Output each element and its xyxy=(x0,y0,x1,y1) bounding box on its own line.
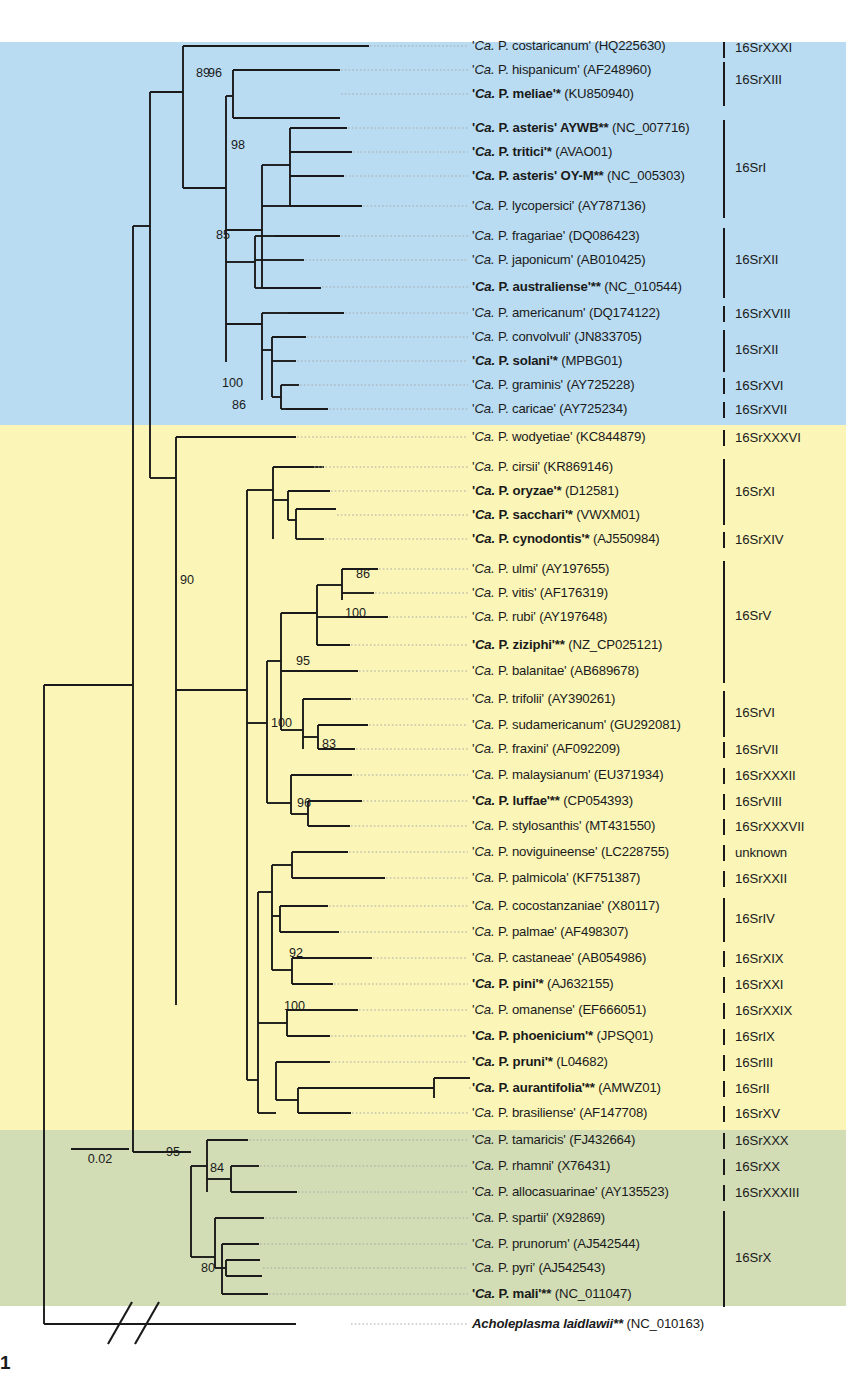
group-label: 16SrIV xyxy=(735,911,775,927)
taxon-accession: (AF498307) xyxy=(557,924,629,939)
taxon-accession: (HQ225630) xyxy=(591,38,666,53)
group-label: 16SrXXXIII xyxy=(735,1185,799,1201)
group-label: 16SrX xyxy=(735,1250,771,1266)
taxon-row: 'Ca. P. cynodontis'* (AJ550984) xyxy=(472,529,660,549)
taxon-name: 'Ca. P. tritici'* xyxy=(472,144,552,159)
bootstrap-value: 85 xyxy=(216,228,230,242)
taxon-name: 'Ca. P. asteris' OY-M** xyxy=(472,168,604,183)
group-label: 16SrII xyxy=(735,1081,770,1097)
taxon-row: 'Ca. P. noviguineense' (LC228755) xyxy=(472,842,669,862)
taxon-name: 'Ca. P. graminis' xyxy=(472,377,563,392)
taxon-accession: (AY787136) xyxy=(574,198,645,213)
taxon-name: 'Ca. P. balanitae' xyxy=(472,663,567,678)
taxon-accession: (AY390261) xyxy=(544,691,615,706)
taxon-name: 'Ca. P. tamaricis' xyxy=(472,1132,566,1147)
group-bracket xyxy=(723,819,725,835)
taxon-accession: (AB689678) xyxy=(567,663,639,678)
bootstrap-value: 86 xyxy=(232,398,246,412)
group-label: 16SrXXXII xyxy=(735,768,796,784)
group-label: 16SrIII xyxy=(735,1055,773,1071)
bootstrap-value: 80 xyxy=(201,1261,215,1275)
taxon-accession: (D12581) xyxy=(561,483,618,498)
taxon-accession: (DQ086423) xyxy=(565,228,640,243)
taxon-row: 'Ca. P. ziziphi'** (NZ_CP025121) xyxy=(472,635,662,655)
taxon-row: 'Ca. P. costaricanum' (HQ225630) xyxy=(472,36,666,56)
taxon-row: 'Ca. P. asteris' OY-M** (NC_005303) xyxy=(472,166,685,186)
bootstrap-value: 96 xyxy=(297,796,311,810)
group-bracket xyxy=(723,306,725,322)
taxon-name: 'Ca. P. hispanicum' xyxy=(472,62,580,77)
taxon-row: 'Ca. P. stylosanthis' (MT431550) xyxy=(472,816,655,836)
taxon-row: 'Ca. P. australiense'** (NC_010544) xyxy=(472,277,682,297)
taxon-name: 'Ca. P. caricae' xyxy=(472,401,556,416)
taxon-accession: (EF666051) xyxy=(575,1002,647,1017)
group-bracket xyxy=(723,120,725,218)
taxon-accession: (AF147708) xyxy=(576,1105,648,1120)
taxon-row: 'Ca. P. rubi' (AY197648) xyxy=(472,607,607,627)
group-label: 16SrXII xyxy=(735,342,778,358)
taxon-name: 'Ca. P. ziziphi'** xyxy=(472,637,565,652)
taxon-name: 'Ca. P. vitis' xyxy=(472,585,536,600)
taxon-accession: (CP054393) xyxy=(560,793,633,808)
group-label: 16SrXII xyxy=(735,252,778,268)
taxon-accession: (NC_010163) xyxy=(623,1316,704,1331)
bootstrap-value: 100 xyxy=(284,999,305,1013)
group-bracket xyxy=(723,1106,725,1122)
taxon-row: 'Ca. P. cocostanzaniae' (X80117) xyxy=(472,896,659,916)
scale-bar-line xyxy=(71,1148,129,1150)
taxon-row: 'Ca. P. convolvuli' (JN833705) xyxy=(472,327,642,347)
taxon-accession: (AY197655) xyxy=(538,561,609,576)
phylogenetic-tree-figure: 'Ca. P. costaricanum' (HQ225630)'Ca. P. … xyxy=(0,0,846,1386)
group-bracket xyxy=(723,845,725,861)
taxon-row: 'Ca. P. palmae' (AF498307) xyxy=(472,922,628,942)
taxon-accession: (EU371934) xyxy=(590,767,663,782)
taxon-row: 'Ca. P. fragariae' (DQ086423) xyxy=(472,226,640,246)
taxon-name: 'Ca. P. pyri' xyxy=(472,1260,535,1275)
taxon-accession: (AJ632155) xyxy=(543,976,613,991)
taxon-name: 'Ca. P. noviguineense' xyxy=(472,844,597,859)
taxon-name: 'Ca. P. sudamericanum' xyxy=(472,717,606,732)
taxon-row: 'Ca. P. malaysianum' (EU371934) xyxy=(472,765,663,785)
taxon-accession: (MPBG01) xyxy=(558,353,623,368)
scale-bar: 0.02 xyxy=(64,1148,136,1167)
taxon-name: 'Ca. P. americanum' xyxy=(472,305,585,320)
taxon-name: 'Ca. P. costaricanum' xyxy=(472,38,591,53)
taxon-name: 'Ca. P. asteris' AYWB** xyxy=(472,120,609,135)
taxon-accession: (AY135523) xyxy=(597,1184,668,1199)
taxon-accession: (NC_010544) xyxy=(601,279,682,294)
group-bracket xyxy=(723,742,725,758)
taxon-accession: (AMWZ01) xyxy=(595,1080,661,1095)
group-bracket xyxy=(723,532,725,548)
taxon-accession: (MT431550) xyxy=(581,818,655,833)
group-bracket xyxy=(723,1081,725,1097)
taxon-accession: (LC228755) xyxy=(597,844,669,859)
bootstrap-value: 96 xyxy=(208,66,222,80)
group-label: 16SrXIV xyxy=(735,532,783,548)
taxon-row: 'Ca. P. solani'* (MPBG01) xyxy=(472,351,622,371)
group-bracket xyxy=(723,459,725,525)
group-bracket xyxy=(723,561,725,683)
taxon-accession: (AJ550984) xyxy=(589,531,659,546)
group-label: 16SrXVI xyxy=(735,378,783,394)
taxon-row: 'Ca. P. balanitae' (AB689678) xyxy=(472,661,639,681)
taxon-row: 'Ca. P. japonicum' (AB010425) xyxy=(472,250,645,270)
taxon-row: 'Ca. P. oryzae'* (D12581) xyxy=(472,481,619,501)
group-bracket xyxy=(723,228,725,298)
bootstrap-value: 83 xyxy=(322,737,336,751)
taxon-accession: (AJ542544) xyxy=(570,1236,640,1251)
taxon-row: 'Ca. P. pini'* (AJ632155) xyxy=(472,974,614,994)
bootstrap-value: 86 xyxy=(356,567,370,581)
group-label: 16SrXIII xyxy=(735,72,782,88)
tree-branches xyxy=(0,0,846,1386)
taxon-accession: (AY725228) xyxy=(563,377,634,392)
group-bracket xyxy=(723,794,725,810)
taxon-row: 'Ca. P. rhamni' (X76431) xyxy=(472,1156,610,1176)
group-label: 16SrXIX xyxy=(735,951,783,967)
taxon-name: 'Ca. P. palmae' xyxy=(472,924,557,939)
group-label: 16SrXVIII xyxy=(735,306,791,322)
group-bracket xyxy=(723,898,725,942)
taxon-name: 'Ca. P. fraxini' xyxy=(472,741,548,756)
taxon-name: 'Ca. P. rhamni' xyxy=(472,1158,554,1173)
taxon-row: 'Ca. P. wodyetiae' (KC844879) xyxy=(472,427,645,447)
taxon-row: 'Ca. P. sudamericanum' (GU292081) xyxy=(472,715,681,735)
